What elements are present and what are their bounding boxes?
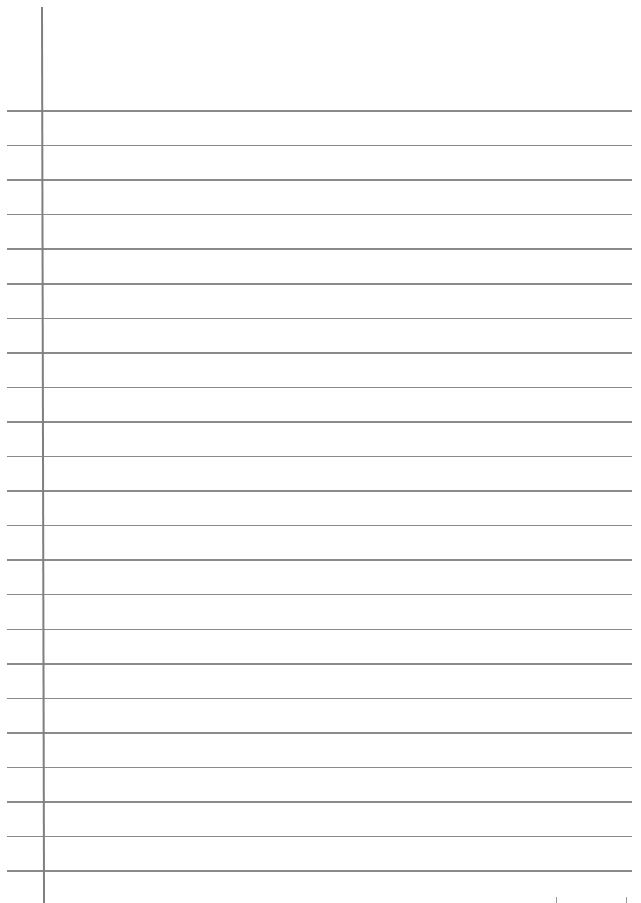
ruled-line: [7, 767, 632, 769]
ruled-line: [7, 145, 632, 147]
ruled-line: [7, 179, 632, 181]
ruled-line: [7, 421, 632, 423]
tick-mark: [556, 897, 557, 903]
ruled-line: [7, 283, 632, 285]
ruled-line: [7, 663, 632, 665]
ruled-paper-page: [0, 0, 641, 903]
ruled-line: [7, 732, 632, 734]
tick-mark: [626, 897, 627, 903]
ruled-line: [7, 110, 632, 112]
ruled-line: [7, 870, 632, 872]
ruled-line: [7, 456, 632, 458]
ruled-line: [7, 836, 632, 838]
ruled-line: [7, 559, 632, 561]
ruled-line: [7, 801, 632, 803]
ruled-line: [7, 594, 632, 596]
ruled-line: [7, 318, 632, 320]
ruled-line: [7, 214, 632, 216]
ruled-line: [7, 525, 632, 527]
ruled-line: [7, 490, 632, 492]
ruled-line: [7, 248, 632, 250]
ruled-line: [7, 629, 632, 631]
ruled-line: [7, 387, 632, 389]
ruled-line: [7, 698, 632, 700]
ruled-line: [7, 352, 632, 354]
